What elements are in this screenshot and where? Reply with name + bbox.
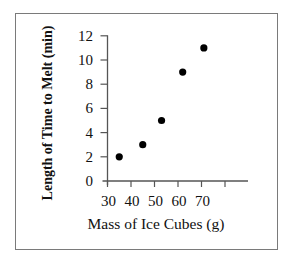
data-point <box>139 141 146 148</box>
y-tick-label: 4 <box>86 125 94 141</box>
y-tick-label: 0 <box>86 173 94 189</box>
data-point <box>200 44 207 51</box>
x-axis-ticks: 3040506070 <box>101 181 225 209</box>
axes <box>103 35 249 185</box>
y-tick-label: 2 <box>86 149 94 165</box>
y-tick-label: 12 <box>78 28 93 44</box>
x-tick-label: 50 <box>148 193 163 209</box>
x-tick-label: 60 <box>172 193 187 209</box>
y-tick-label: 10 <box>78 52 93 68</box>
x-tick-label: 30 <box>101 193 116 209</box>
x-tick-label: 70 <box>195 193 210 209</box>
x-tick-label: 40 <box>125 193 140 209</box>
x-axis-label: Mass of Ice Cubes (g) <box>88 215 225 233</box>
data-point <box>116 153 123 160</box>
y-tick-label: 8 <box>86 76 94 92</box>
data-point <box>158 117 165 124</box>
y-tick-label: 6 <box>86 100 94 116</box>
y-axis-ticks: 024681012 <box>78 28 108 189</box>
y-axis-label: Length of Time to Melt (min) <box>40 25 56 200</box>
data-point <box>179 69 186 76</box>
scatter-chart: 3040506070 024681012 Length of Time to M… <box>0 0 295 266</box>
data-points <box>116 44 208 160</box>
